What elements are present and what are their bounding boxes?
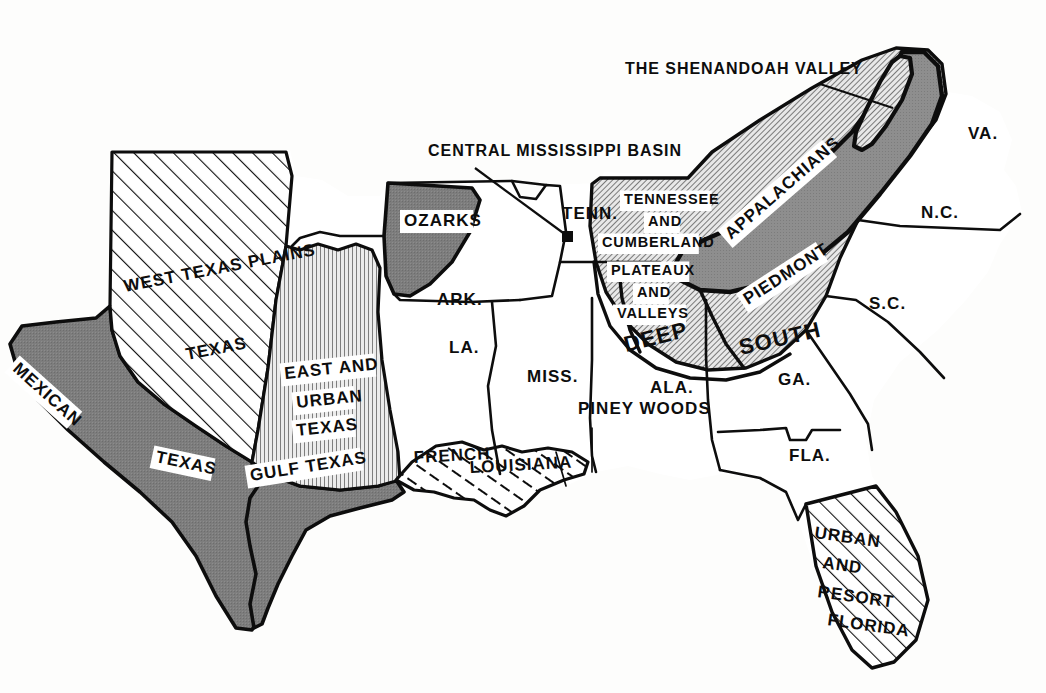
region-label-piney-woods: PINEY WOODS	[578, 399, 711, 418]
state-label-ga-text: GA.	[778, 370, 811, 389]
state-label-fla-text: FLA.	[789, 446, 831, 465]
state-label-sc-text: S.C.	[869, 294, 906, 313]
region-label-ozarks-text: OZARKS	[404, 211, 482, 230]
state-label-la-text: LA.	[449, 338, 479, 357]
state-label-ark: ARK.	[437, 290, 483, 309]
state-label-va: VA.	[968, 124, 998, 143]
callout-shenandoah-text: THE SHENANDOAH VALLEY	[625, 60, 863, 77]
state-label-nc: N.C.	[921, 203, 959, 222]
state-label-ga: GA.	[778, 370, 811, 389]
region-map: THE SHENANDOAH VALLEYCENTRAL MISSISSIPPI…	[0, 0, 1046, 693]
state-label-nc-text: N.C.	[921, 203, 959, 222]
region-label-plateaux: PLATEAUX	[607, 262, 695, 283]
state-label-ala-text: ALA.	[650, 378, 694, 397]
state-label-tenn: TENN.	[562, 204, 618, 223]
callout-central-mississippi-basin: CENTRAL MISSISSIPPI BASIN	[428, 142, 682, 159]
region-label-cumberland: CUMBERLAND	[598, 234, 715, 255]
region-label-and-2-text: AND	[637, 284, 671, 300]
central-mississippi-basin-marker	[562, 231, 573, 242]
state-label-la: LA.	[449, 338, 479, 357]
region-label-tennessee-text: TENNESSEE	[624, 191, 720, 207]
region-label-and-2: AND	[633, 284, 671, 305]
callout-shenandoah: THE SHENANDOAH VALLEY	[625, 60, 863, 77]
region-urban-resort-florida	[806, 486, 928, 668]
state-label-va-text: VA.	[968, 124, 998, 143]
urban-resort-florida-fill	[806, 486, 928, 668]
region-label-piney-woods-text: PINEY WOODS	[578, 399, 711, 418]
map-canvas: THE SHENANDOAH VALLEYCENTRAL MISSISSIPPI…	[0, 0, 1046, 693]
callout-central-mississippi-basin-text: CENTRAL MISSISSIPPI BASIN	[428, 142, 682, 159]
region-label-tennessee: TENNESSEE	[620, 191, 720, 212]
region-label-ozarks: OZARKS	[400, 210, 482, 233]
region-label-and-1: AND	[644, 213, 682, 234]
state-label-ark-text: ARK.	[437, 290, 483, 309]
region-label-and-1-text: AND	[648, 213, 682, 229]
state-label-fla: FLA.	[789, 446, 831, 465]
region-label-plateaux-text: PLATEAUX	[611, 262, 695, 278]
state-label-sc: S.C.	[869, 294, 906, 313]
state-label-tenn-text: TENN.	[562, 204, 618, 223]
state-label-ala: ALA.	[650, 378, 694, 397]
state-label-miss-text: MISS.	[527, 367, 578, 386]
state-label-miss: MISS.	[527, 367, 578, 386]
region-label-cumberland-text: CUMBERLAND	[602, 234, 715, 250]
